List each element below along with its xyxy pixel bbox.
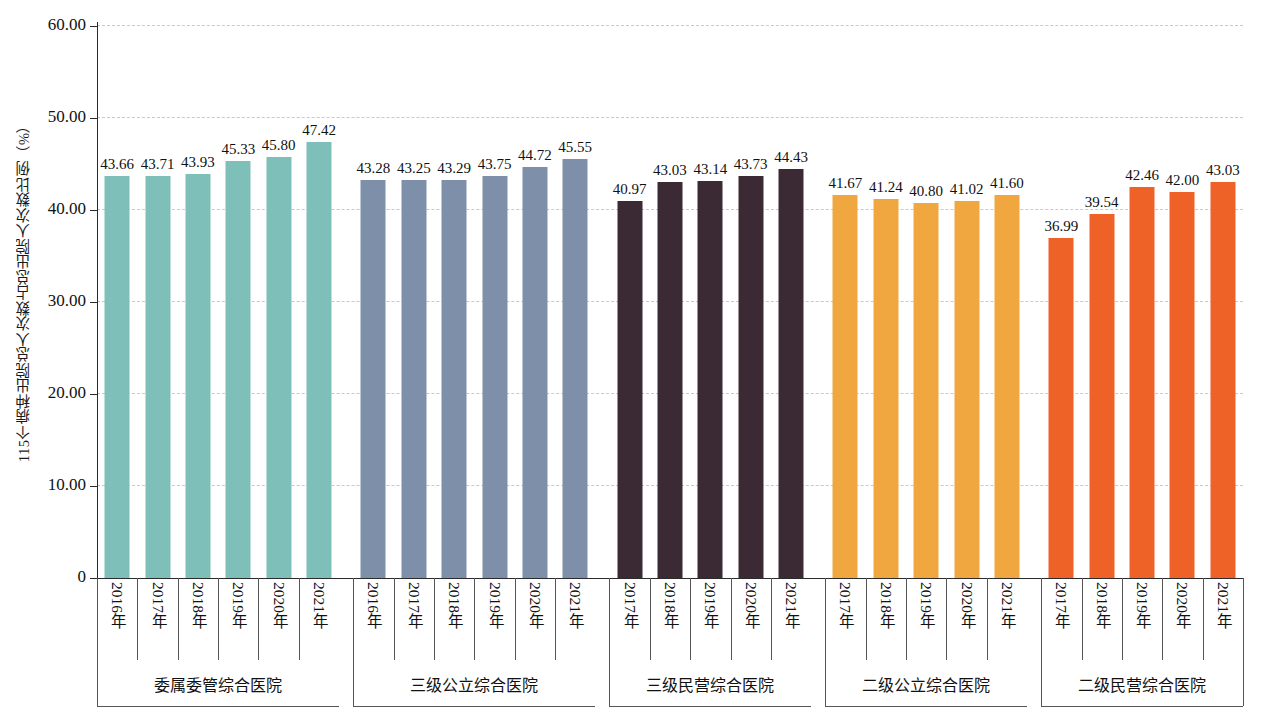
y-tick-mark [90, 394, 97, 395]
x-tick-year-text: 2019年 [1131, 582, 1153, 629]
bar-column[interactable]: 43.66 [97, 26, 137, 578]
bar-column[interactable]: 45.80 [258, 26, 298, 578]
bar-column[interactable]: 43.03 [1203, 26, 1243, 578]
bar-column[interactable]: 43.29 [434, 26, 474, 578]
bar-value-label: 42.00 [1166, 172, 1200, 189]
x-tick-year-label: 2017年 [394, 582, 434, 660]
x-tick-year-text: 2016年 [106, 582, 128, 629]
bar[interactable] [266, 157, 291, 578]
bar[interactable] [698, 181, 723, 578]
bar[interactable] [361, 180, 386, 578]
bar-column[interactable]: 41.24 [866, 26, 906, 578]
x-tick-year-text: 2018年 [187, 582, 209, 629]
x-tick-year-text: 2021年 [996, 582, 1018, 629]
bar[interactable] [954, 201, 979, 578]
bar[interactable] [779, 169, 804, 578]
y-tick-mark [90, 210, 97, 211]
bar[interactable] [145, 176, 170, 578]
x-tick-year-text: 2021年 [1212, 582, 1234, 629]
bar-column[interactable]: 44.43 [771, 26, 811, 578]
x-tick-year-text: 2018年 [443, 582, 465, 629]
bar[interactable] [307, 142, 332, 578]
bar[interactable] [401, 180, 426, 578]
x-tick-year-label: 2019年 [690, 582, 730, 660]
x-group-baseline [353, 706, 595, 707]
bar-value-label: 41.24 [869, 179, 903, 196]
x-tick-year-label: 2018年 [866, 582, 906, 660]
x-tick-year-label: 2017年 [1041, 582, 1081, 660]
bar[interactable] [617, 201, 642, 578]
bar-value-label: 43.29 [437, 160, 471, 177]
bar-column[interactable]: 40.80 [906, 26, 946, 578]
x-group-label: 三级公立综合医院 [353, 664, 595, 704]
x-group-label: 二级民营综合医院 [1041, 664, 1243, 704]
x-tick-year-text: 2020年 [268, 582, 290, 629]
x-tick-year-label: 2018年 [1082, 582, 1122, 660]
bar-column[interactable]: 42.00 [1162, 26, 1202, 578]
bar[interactable] [185, 174, 210, 578]
bar-column[interactable]: 43.73 [731, 26, 771, 578]
bar[interactable] [226, 161, 251, 578]
bar-column[interactable]: 43.71 [137, 26, 177, 578]
bar[interactable] [563, 159, 588, 578]
bar-column[interactable]: 40.97 [609, 26, 649, 578]
bar-value-label: 40.97 [613, 181, 647, 198]
bar[interactable] [657, 182, 682, 578]
x-tick-year-label: 2017年 [609, 582, 649, 660]
x-tick-year-label: 2019年 [218, 582, 258, 660]
bar-column[interactable]: 43.03 [650, 26, 690, 578]
bar[interactable] [914, 203, 939, 578]
bar[interactable] [442, 180, 467, 578]
x-tick-year-label: 2019年 [1122, 582, 1162, 660]
bar-column[interactable]: 45.55 [555, 26, 595, 578]
y-axis-title-text: 115个病种出院总人次数占总出院人次数比例（%） [13, 117, 34, 462]
x-tick-year-text: 2016年 [362, 582, 384, 629]
bar[interactable] [833, 195, 858, 578]
bar[interactable] [105, 176, 130, 578]
x-tick-year-text: 2020年 [524, 582, 546, 629]
y-tick-label: 60.00 [0, 15, 86, 35]
x-tick-year-label: 2020年 [258, 582, 298, 660]
x-tick-year-label: 2021年 [555, 582, 595, 660]
x-group-separator [1041, 578, 1042, 706]
y-tick-label: 10.00 [0, 475, 86, 495]
bar-column[interactable]: 41.60 [987, 26, 1027, 578]
bar[interactable] [1089, 214, 1114, 578]
bar[interactable] [1049, 238, 1074, 578]
bar[interactable] [994, 195, 1019, 578]
bar-value-label: 43.28 [357, 160, 391, 177]
bar[interactable] [1170, 192, 1195, 578]
x-tick-year-label: 2020年 [946, 582, 986, 660]
bar-value-label: 43.73 [734, 156, 768, 173]
bar-column[interactable]: 43.75 [474, 26, 514, 578]
bar-column[interactable]: 42.46 [1122, 26, 1162, 578]
bar[interactable] [522, 167, 547, 578]
bar-column[interactable]: 41.02 [946, 26, 986, 578]
bar-column[interactable]: 45.33 [218, 26, 258, 578]
x-group-baseline [825, 706, 1027, 707]
bar-column[interactable]: 39.54 [1082, 26, 1122, 578]
bar-value-label: 43.25 [397, 160, 431, 177]
x-group-separator [1243, 578, 1244, 706]
bar-value-label: 42.46 [1125, 167, 1159, 184]
bar[interactable] [738, 176, 763, 578]
bar[interactable] [482, 176, 507, 579]
bar[interactable] [873, 199, 898, 578]
x-tick-year-label: 2021年 [771, 582, 811, 660]
bar[interactable] [1130, 187, 1155, 578]
bar-column[interactable]: 47.42 [299, 26, 339, 578]
bar-column[interactable]: 43.93 [178, 26, 218, 578]
bar-column[interactable]: 43.14 [690, 26, 730, 578]
x-tick-year-label: 2020年 [1162, 582, 1202, 660]
x-tick-year-label: 2021年 [299, 582, 339, 660]
y-tick-label: 40.00 [0, 199, 86, 219]
bar-column[interactable]: 41.67 [825, 26, 865, 578]
bar-value-label: 43.14 [693, 161, 727, 178]
bar-column[interactable]: 44.72 [515, 26, 555, 578]
x-tick-year-text: 2018年 [659, 582, 681, 629]
bar-column[interactable]: 43.28 [353, 26, 393, 578]
bar-column[interactable]: 43.25 [394, 26, 434, 578]
bar-column[interactable]: 36.99 [1041, 26, 1081, 578]
x-tick-year-text: 2019年 [227, 582, 249, 629]
bar[interactable] [1210, 182, 1235, 578]
